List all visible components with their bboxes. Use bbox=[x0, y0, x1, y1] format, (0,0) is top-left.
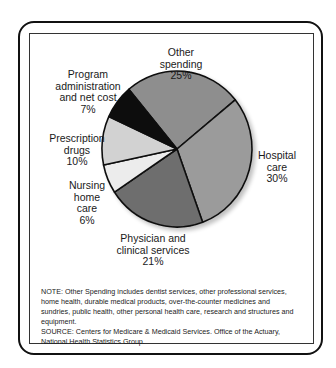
label-other-spending: Other spending 25% bbox=[146, 47, 216, 82]
label-percent: 21% bbox=[113, 256, 193, 268]
label-text: Program bbox=[48, 69, 128, 81]
label-percent: 25% bbox=[146, 70, 216, 82]
footnote-source: SOURCE: Centers for Medicare & Medicaid … bbox=[41, 327, 301, 347]
label-physician-clinical: Physician and clinical services 21% bbox=[113, 233, 193, 268]
label-text: and net cost bbox=[48, 92, 128, 104]
label-percent: 6% bbox=[62, 215, 112, 227]
footnote-note: NOTE: Other Spending includes dentist se… bbox=[41, 287, 301, 327]
label-prescription-drugs: Prescription drugs 10% bbox=[42, 133, 112, 168]
label-text: Prescription bbox=[42, 133, 112, 145]
label-percent: 10% bbox=[42, 156, 112, 168]
label-text: Nursing bbox=[62, 180, 112, 192]
label-text: Other spending bbox=[146, 47, 216, 70]
label-text: Physician and bbox=[113, 233, 193, 245]
label-text: care bbox=[62, 203, 112, 215]
label-hospital-care: Hospital care 30% bbox=[252, 150, 302, 185]
footnote: NOTE: Other Spending includes dentist se… bbox=[41, 287, 301, 347]
label-percent: 30% bbox=[252, 173, 302, 185]
label-program-administration: Program administration and net cost 7% bbox=[48, 69, 128, 115]
label-percent: 7% bbox=[48, 104, 128, 116]
label-nursing-home-care: Nursing home care 6% bbox=[62, 180, 112, 226]
label-text: Hospital bbox=[252, 150, 302, 162]
